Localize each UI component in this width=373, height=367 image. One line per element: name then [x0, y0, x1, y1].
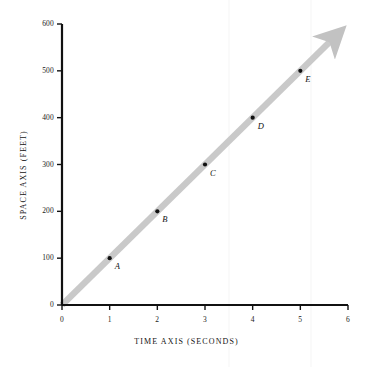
- data-point-marker: [251, 116, 255, 120]
- y-tick-label: 400: [28, 114, 54, 122]
- x-tick-label: 5: [290, 316, 310, 324]
- trend-band: [62, 38, 334, 305]
- plot-area: [0, 0, 373, 367]
- x-tick-label: 2: [147, 316, 167, 324]
- y-axis-title: SPACE AXIS (FEET): [20, 60, 28, 290]
- data-point-marker: [108, 256, 112, 260]
- x-axis-title: TIME AXIS (SECONDS): [0, 338, 373, 346]
- trend-band-line: [62, 38, 334, 305]
- data-point-label: C: [210, 169, 216, 178]
- x-tick-label: 4: [243, 316, 263, 324]
- data-point-label: E: [305, 75, 310, 84]
- x-tick-label: 3: [195, 316, 215, 324]
- data-point-label: D: [258, 122, 264, 131]
- x-tick-label: 1: [100, 316, 120, 324]
- data-point-marker: [203, 162, 207, 166]
- y-tick-label: 200: [28, 207, 54, 215]
- data-point-marker: [155, 209, 159, 213]
- chart-container: 0100200300400500600 0123456 ABCDE TIME A…: [0, 0, 373, 367]
- data-point-label: B: [162, 215, 167, 224]
- y-tick-label: 500: [28, 67, 54, 75]
- y-tick-label: 100: [28, 254, 54, 262]
- x-tick-label: 6: [338, 316, 358, 324]
- y-tick-label: 0: [28, 301, 54, 309]
- data-point-label: A: [115, 262, 120, 271]
- y-tick-label: 600: [28, 20, 54, 28]
- x-tick-label: 0: [52, 316, 72, 324]
- data-point-marker: [298, 69, 302, 73]
- y-tick-label: 300: [28, 161, 54, 169]
